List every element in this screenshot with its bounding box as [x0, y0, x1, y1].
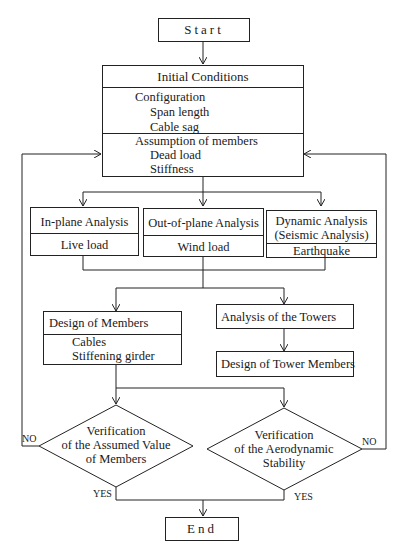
configuration-heading: Configuration [135, 90, 205, 104]
decision-assumed-value-yes-label: YES [93, 487, 112, 501]
start-label: Start [159, 23, 249, 37]
design-of-tower-members-label: Design of Tower Members [221, 357, 355, 371]
seismic-analysis-subtitle: (Seismic Analysis) [267, 228, 376, 242]
config-item-span-length: Span length [150, 105, 209, 119]
live-load-label: Live load [31, 238, 138, 252]
earthquake-label: Earthquake [267, 244, 376, 258]
out-of-plane-analysis-title: Out-of-plane Analysis [144, 216, 263, 230]
decision-assumed-value-line2: of the Assumed Value [36, 438, 196, 452]
divider [103, 87, 303, 88]
divider [44, 334, 181, 335]
design-item-stiffening-girder: Stiffening girder [72, 349, 155, 363]
design-of-tower-members-box: Design of Tower Members [216, 351, 354, 377]
design-of-members-title: Design of Members [49, 316, 148, 330]
divider [31, 233, 138, 234]
initial-conditions-box: Initial Conditions Configuration Span le… [102, 65, 304, 177]
wind-load-label: Wind load [144, 240, 263, 254]
decision-assumed-value-line3: of Members [36, 452, 196, 466]
analysis-of-towers-box: Analysis of the Towers [216, 304, 354, 329]
design-item-cables: Cables [72, 335, 106, 349]
design-of-members-box: Design of Members Cables Stiffening gird… [43, 311, 182, 365]
decision-aerodynamic-line2: of the Aerodynamic [204, 442, 364, 456]
decision-aerodynamic-yes-label: YES [294, 490, 313, 504]
initial-conditions-title: Initial Conditions [103, 70, 303, 84]
in-plane-analysis-title: In-plane Analysis [31, 215, 138, 229]
out-of-plane-analysis-box: Out-of-plane Analysis Wind load [143, 208, 264, 257]
divider [144, 235, 263, 236]
analysis-of-towers-label: Analysis of the Towers [221, 310, 336, 324]
assumption-item-stiffness: Stiffness [150, 162, 194, 176]
start-node: Start [158, 18, 250, 42]
decision-assumed-value-line1: Verification [36, 424, 196, 438]
decision-aerodynamic-no-label: NO [362, 435, 376, 449]
dynamic-analysis-box: Dynamic Analysis (Seismic Analysis) Eart… [266, 210, 377, 258]
decision-assumed-value-no-label: NO [22, 432, 36, 446]
assumption-heading: Assumption of members [135, 134, 258, 148]
decision-aerodynamic-line3: Stability [204, 456, 364, 470]
assumption-item-dead-load: Dead load [150, 148, 201, 162]
end-node: End [165, 517, 239, 541]
dynamic-analysis-title: Dynamic Analysis [267, 214, 376, 228]
end-label: End [166, 522, 238, 536]
decision-aerodynamic-line1: Verification [204, 428, 364, 442]
config-item-cable-sag: Cable sag [150, 120, 199, 134]
in-plane-analysis-box: In-plane Analysis Live load [30, 207, 139, 256]
